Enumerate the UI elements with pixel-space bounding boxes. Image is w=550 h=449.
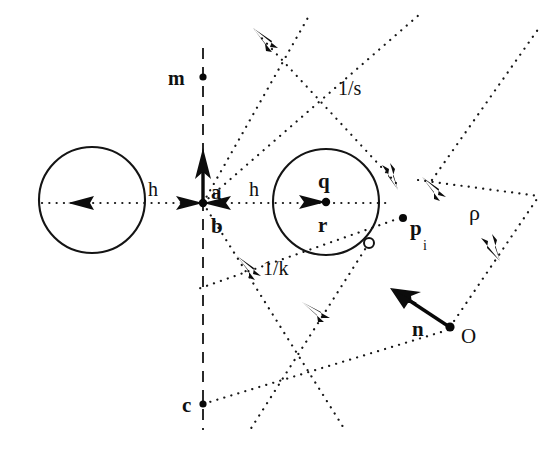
label-q: q <box>318 169 330 193</box>
label-p-subscript: i <box>423 238 427 253</box>
left-circle <box>39 147 145 253</box>
label-one-over-k: 1/k <box>263 257 289 279</box>
point-pi-dot <box>399 214 407 222</box>
dotted-line-1k-to-c <box>203 330 448 404</box>
geometry-diagram: m a b c h h q r 1/s 1/k ρ n O p i <box>0 0 550 449</box>
label-b: b <box>211 214 223 238</box>
point-r-dot <box>322 198 330 206</box>
label-a: a <box>211 180 222 204</box>
point-b-dot <box>199 199 207 207</box>
dotted-line-1s-right-leg <box>203 14 420 203</box>
dotted-line-rho-right <box>450 196 539 327</box>
label-h-right: h <box>249 178 259 200</box>
arrowhead-1k-lower-left-icon <box>302 302 330 322</box>
arrowhead-1s-upper-left-icon <box>253 28 278 52</box>
dotted-line-1s-upper-left <box>258 34 396 183</box>
dotted-line-1s-left-leg <box>203 14 310 203</box>
dotted-line-upper-right <box>432 28 539 180</box>
label-r: r <box>318 213 327 237</box>
label-c: c <box>182 393 191 417</box>
vector-a <box>195 148 211 203</box>
arrowhead-1k-upper-left-icon <box>237 256 261 280</box>
label-origin: O <box>461 324 476 348</box>
point-c-dot <box>199 400 206 407</box>
label-h-left: h <box>148 178 158 200</box>
label-p: p <box>410 216 422 240</box>
label-one-over-s: 1/s <box>338 77 362 99</box>
arrowhead-left-circle-icon <box>68 196 94 210</box>
point-O-dot <box>445 322 454 331</box>
label-m: m <box>168 67 185 89</box>
label-n: n <box>412 317 424 341</box>
tangency-marker-icon <box>364 238 374 248</box>
dotted-line-1k-upper <box>195 218 400 290</box>
arrowhead-rho-down-right-icon <box>481 234 500 261</box>
label-rho: ρ <box>469 200 480 225</box>
arrowhead-down-left-upper-icon <box>382 163 398 190</box>
point-m-dot <box>199 73 206 80</box>
figure-canvas: m a b c h h q r 1/s 1/k ρ n O p i <box>0 0 550 449</box>
